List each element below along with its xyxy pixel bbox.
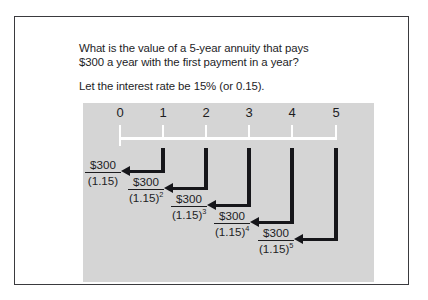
period-label-4: 4 (281, 105, 303, 121)
tick-mark-4 (291, 125, 294, 140)
tick-mark-2 (205, 125, 208, 140)
discount-arrow-1-horizontal (130, 170, 163, 173)
discounted-value-4-numerator: $300 (214, 210, 250, 222)
discount-arrow-4-head (250, 217, 259, 227)
discounted-value-2-denominator: (1.15)2 (128, 191, 164, 204)
discounted-value-4-base: (1.15) (215, 225, 245, 238)
discounted-value-2: $300 (1.15)2 (128, 176, 164, 204)
discount-arrow-5-head (294, 234, 303, 244)
discounted-value-1-denominator: (1.15) (85, 174, 121, 187)
discount-arrow-2-horizontal (173, 187, 206, 190)
discounted-value-5-exponent: 5 (289, 241, 293, 250)
discount-arrow-5-vertical (334, 148, 337, 241)
period-label-3: 3 (238, 105, 260, 121)
period-label-1: 1 (152, 105, 174, 121)
discounted-value-4: $300 (1.15)4 (214, 210, 250, 238)
discounted-value-5-numerator: $300 (258, 227, 294, 239)
discounted-value-5-base: (1.15) (259, 242, 289, 255)
discount-arrow-3-head (207, 200, 216, 210)
tick-mark-1 (162, 125, 165, 140)
discounted-value-2-numerator: $300 (128, 176, 164, 188)
discount-arrow-1-head (121, 166, 130, 176)
discounted-value-3-base: (1.15) (172, 208, 202, 221)
discounted-value-3: $300 (1.15)3 (171, 193, 207, 221)
tick-mark-3 (248, 125, 251, 140)
discounted-value-3-denominator: (1.15)3 (171, 208, 207, 221)
discount-arrow-2-vertical (204, 148, 207, 190)
period-label-0: 0 (109, 105, 131, 121)
discounted-value-3-numerator: $300 (171, 193, 207, 205)
period-label-2: 2 (195, 105, 217, 121)
tick-mark-0-lower (119, 137, 122, 146)
discount-arrow-5-horizontal (303, 238, 336, 241)
discount-arrow-3-vertical (247, 148, 250, 207)
figure-frame: What is the value of a 5-year annuity th… (14, 16, 409, 285)
discounted-value-4-denominator: (1.15)4 (214, 225, 250, 238)
period-label-5: 5 (325, 105, 347, 121)
discounted-value-1: $300 (1.15) (85, 159, 121, 187)
discount-arrow-4-vertical (290, 148, 293, 224)
discounted-value-4-exponent: 4 (245, 224, 249, 233)
discounted-value-2-exponent: 2 (159, 190, 163, 199)
discounted-value-5-denominator: (1.15)5 (258, 242, 294, 255)
tick-mark-5 (335, 125, 338, 140)
timeline-panel: 0 1 2 3 4 5 (83, 103, 374, 282)
prompt-interest-rate-line: Let the interest rate be 15% (or 0.15). (79, 79, 379, 93)
discounted-value-2-base: (1.15) (129, 191, 159, 204)
discounted-value-3-exponent: 3 (202, 207, 206, 216)
annuity-timeline-figure: What is the value of a 5-year annuity th… (0, 0, 428, 300)
discounted-value-1-numerator: $300 (85, 159, 121, 171)
timeline-axis-rule (120, 137, 336, 140)
prompt-block: What is the value of a 5-year annuity th… (79, 41, 379, 93)
discounted-value-5: $300 (1.15)5 (258, 227, 294, 255)
prompt-question-line-1: What is the value of a 5-year annuity th… (79, 41, 379, 55)
discount-arrow-2-head (164, 183, 173, 193)
discount-arrow-4-horizontal (259, 221, 292, 224)
discount-arrow-3-horizontal (216, 204, 249, 207)
discounted-value-1-base: (1.15) (88, 174, 118, 187)
prompt-question-line-2: $300 a year with the first payment in a … (79, 55, 379, 69)
